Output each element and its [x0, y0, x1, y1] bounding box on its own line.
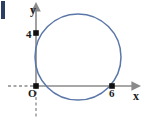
origin-label: O — [28, 88, 37, 99]
y-intercept-label: 4 — [26, 29, 32, 40]
coordinate-plot — [0, 0, 148, 120]
y-axis-label: y — [30, 4, 36, 16]
point-marker-y-intercept — [33, 30, 39, 36]
x-axis-label: x — [133, 90, 139, 102]
x-intercept-label: 6 — [109, 88, 115, 99]
circle-graph-figure: y x 4 O 6 — [0, 0, 148, 120]
